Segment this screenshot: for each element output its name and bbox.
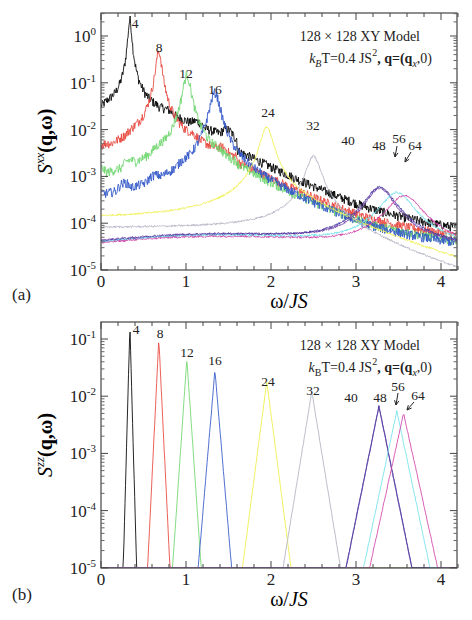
temperature-annotation: kBT=0.4 JS2, q=(qx,0) bbox=[309, 356, 433, 378]
y-tick-label: 10-2 bbox=[70, 119, 96, 140]
y-tick-label: 10-4 bbox=[70, 212, 97, 233]
x-tick-label: 2 bbox=[267, 570, 276, 589]
peak-label-q56: 56 bbox=[392, 131, 406, 146]
x-tick-label: 4 bbox=[437, 570, 446, 589]
x-tick-label: 3 bbox=[352, 570, 361, 589]
series-line-q4 bbox=[101, 16, 458, 233]
peak-label-q48: 48 bbox=[372, 138, 386, 153]
y-axis-label: Szz(q,ω) bbox=[32, 413, 57, 477]
peak-label-q8: 8 bbox=[156, 40, 163, 55]
x-tick-label: 0 bbox=[97, 570, 106, 589]
x-tick-label: 4 bbox=[437, 272, 446, 291]
peak-label-q4: 4 bbox=[133, 322, 140, 337]
y-tick-label: 10-3 bbox=[70, 165, 97, 186]
peak-label-q24: 24 bbox=[261, 374, 275, 389]
panel-b-szz-plot: 0123410-510-410-310-210-1ω/JSSzz(q,ω)(b)… bbox=[12, 322, 458, 610]
peak-label-q4: 4 bbox=[132, 16, 139, 31]
peak-label-q12: 12 bbox=[180, 345, 194, 360]
y-tick-label: 10-5 bbox=[70, 259, 97, 280]
y-tick-label: 10-1 bbox=[70, 72, 96, 93]
y-tick-label: 10-1 bbox=[70, 328, 96, 349]
series-line-q8 bbox=[101, 343, 458, 568]
x-tick-label: 3 bbox=[352, 272, 361, 291]
peak-label-q32: 32 bbox=[306, 383, 320, 398]
peak-label-q24: 24 bbox=[261, 105, 275, 120]
peak-label-q32: 32 bbox=[306, 118, 320, 133]
series-line-q16 bbox=[101, 373, 458, 568]
peak-label-q56: 56 bbox=[391, 379, 405, 394]
peak-label-q64: 64 bbox=[411, 388, 425, 403]
y-tick-label: 10-4 bbox=[70, 500, 97, 521]
peak-label-q48: 48 bbox=[373, 390, 387, 405]
y-tick-label: 10-3 bbox=[70, 442, 97, 463]
model-annotation: 128 × 128 XY Model bbox=[300, 338, 420, 353]
temperature-annotation: kBT=0.4 JS2, q=(qx,0) bbox=[309, 47, 432, 69]
y-tick-label: 10-2 bbox=[70, 385, 96, 406]
series-line-q64 bbox=[101, 414, 458, 567]
y-tick-label: 100 bbox=[74, 25, 97, 46]
peak-label-q8: 8 bbox=[157, 326, 164, 341]
model-annotation: 128 × 128 XY Model bbox=[300, 29, 420, 44]
peak-label-q40: 40 bbox=[341, 133, 355, 148]
y-axis-label: Sxx(q,ω) bbox=[32, 109, 57, 175]
panel-label: (a) bbox=[12, 285, 31, 304]
panel-label: (b) bbox=[12, 585, 32, 604]
x-axis-label: ω/JS bbox=[270, 290, 308, 312]
x-tick-label: 2 bbox=[267, 272, 276, 291]
peak-label-q40: 40 bbox=[344, 390, 358, 405]
peak-label-q16: 16 bbox=[208, 353, 222, 368]
x-tick-label: 1 bbox=[182, 272, 191, 291]
series-line-q24 bbox=[101, 382, 458, 568]
peak-label-q16: 16 bbox=[208, 82, 222, 97]
x-axis-label: ω/JS bbox=[270, 588, 308, 610]
peak-label-q12: 12 bbox=[179, 66, 193, 81]
x-tick-label: 0 bbox=[97, 272, 106, 291]
peak-label-q64: 64 bbox=[408, 138, 422, 153]
figure: 0123410-510-410-310-210-1100ω/JSSxx(q,ω)… bbox=[0, 0, 472, 620]
y-tick-label: 10-5 bbox=[70, 557, 97, 578]
panel-a-sxx-plot: 0123410-510-410-310-210-1100ω/JSSxx(q,ω)… bbox=[12, 13, 458, 312]
x-tick-label: 1 bbox=[182, 570, 191, 589]
